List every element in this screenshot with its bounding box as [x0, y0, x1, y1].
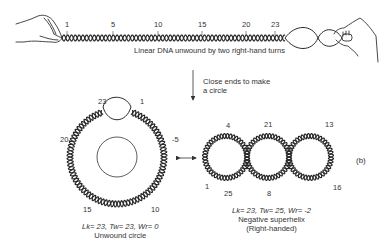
linear-dna-strand	[62, 35, 285, 41]
circle-label: 15	[83, 206, 91, 214]
supercoil-formula: Lk= 23, Tw= 25, Wr= -2	[232, 206, 311, 215]
supercoil-label: 21	[264, 121, 272, 129]
linear-label: 23	[271, 21, 279, 29]
label-ticks	[67, 31, 275, 35]
supercoil-label: 16	[333, 184, 341, 192]
linear-label: 20	[242, 21, 250, 29]
panel-label: (b)	[356, 157, 366, 165]
supercoil-subtitle: (Right-handed)	[232, 224, 311, 233]
unwound-circle-dna	[67, 97, 167, 207]
inner-circle	[97, 137, 137, 177]
linear-label: 15	[198, 21, 206, 29]
supercoil-label: 25	[224, 190, 232, 198]
supercoiled-dna	[203, 134, 334, 181]
supercoil-label: 13	[325, 121, 333, 129]
circle-label: 20-	[60, 136, 71, 144]
linear-caption: Linear DNA unwound by two right-hand tur…	[134, 46, 285, 55]
circle-label: 23	[98, 98, 106, 106]
unwound-caption: Lk= 23, Tw= 23, Wr= 0 Unwound circle	[82, 222, 158, 240]
supercoil-title: Negative superhelix	[232, 215, 311, 224]
unwound-title: Unwound circle	[82, 231, 158, 240]
step-line-1: Close ends to make	[203, 77, 270, 86]
circle-label: 1	[140, 98, 144, 106]
linear-label: 10	[154, 21, 162, 29]
step-caption: Close ends to make a circle	[203, 77, 270, 95]
circle-label: -5	[172, 136, 179, 144]
unwound-loop	[285, 28, 342, 49]
supercoil-label: 4	[226, 122, 230, 130]
left-hand-icon	[16, 15, 62, 42]
step-line-2: a circle	[203, 86, 270, 95]
unwound-formula: Lk= 23, Tw= 23, Wr= 0	[82, 222, 158, 231]
circle-label: 10	[151, 206, 159, 214]
supercoil-label: 1	[205, 183, 209, 191]
supercoil-label: 8	[267, 190, 271, 198]
supercoil-caption: Lk= 23, Tw= 25, Wr= -2 Negative superhel…	[232, 206, 311, 233]
linear-label: 1	[65, 21, 69, 29]
linear-label: 5	[111, 21, 115, 29]
